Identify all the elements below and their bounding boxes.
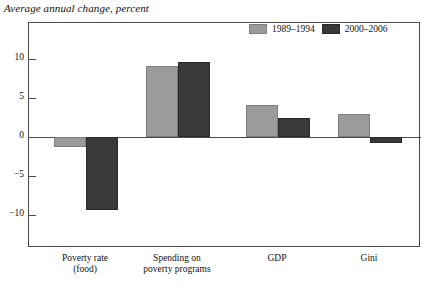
bar	[278, 118, 310, 138]
bar	[370, 137, 402, 143]
x-axis-category-line: poverty programs	[117, 264, 237, 275]
bar	[86, 137, 118, 210]
bar	[178, 62, 210, 137]
chart-legend: 1989–1994 2000–2006	[249, 24, 388, 34]
legend-label: 2000–2006	[345, 24, 388, 34]
x-axis-category-label: Gini	[309, 253, 429, 264]
plot-area	[28, 22, 420, 247]
x-axis-category-line: Gini	[309, 253, 429, 264]
y-tick-label: −10	[2, 208, 24, 218]
chart-title: Average annual change, percent	[4, 2, 149, 15]
y-tick-label: 10	[2, 52, 24, 62]
bar-chart: Average annual change, percent 1050−5−10…	[0, 0, 434, 292]
y-tick-label: 5	[2, 91, 24, 101]
legend-label: 1989–1994	[272, 24, 315, 34]
legend-swatch-icon	[249, 24, 267, 34]
bar	[54, 137, 86, 147]
bar	[146, 66, 178, 137]
y-tick-label: 0	[2, 130, 24, 140]
bars-layer	[29, 23, 421, 248]
legend-item-series-0: 1989–1994	[249, 24, 315, 34]
bar	[338, 114, 370, 137]
y-tick-label: −5	[2, 169, 24, 179]
legend-item-series-1: 2000–2006	[322, 24, 388, 34]
legend-swatch-icon	[322, 24, 340, 34]
bar	[246, 105, 278, 137]
